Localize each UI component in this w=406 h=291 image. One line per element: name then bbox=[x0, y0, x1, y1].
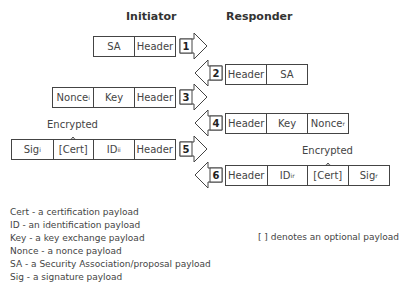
payload-sa: SA bbox=[94, 37, 134, 56]
payload-header: Header bbox=[134, 140, 176, 159]
payload-header: Header bbox=[226, 65, 266, 84]
payload-cert: [Cert] bbox=[307, 166, 348, 185]
payload-nonce: Noncei bbox=[53, 88, 93, 107]
payload-sa: SA bbox=[266, 65, 307, 84]
payload-key: Key bbox=[93, 88, 133, 107]
payload-id: IDii bbox=[93, 140, 134, 159]
message-1: SA Header bbox=[93, 36, 176, 57]
arrow-right-icon: 1 bbox=[179, 32, 209, 60]
payload-header: Header bbox=[226, 114, 266, 133]
message-4: Header Key Noncer bbox=[225, 113, 349, 134]
encrypted-label: Encrypted bbox=[266, 145, 389, 156]
legend: Cert - a certification payload ID - an i… bbox=[10, 206, 211, 284]
responder-heading: Responder bbox=[226, 10, 293, 23]
legend-item-sig: Sig - a signature payload bbox=[10, 271, 211, 284]
legend-item-key: Key - a key exchange payload bbox=[10, 232, 211, 245]
arrow-right-icon: 5 bbox=[179, 135, 209, 163]
legend-item-sa: SA - a Security Association/proposal pay… bbox=[10, 258, 211, 271]
legend-item-nonce: Nonce - a nonce payload bbox=[10, 245, 211, 258]
message-number: 4 bbox=[213, 118, 220, 129]
message-number: 3 bbox=[183, 92, 190, 103]
legend-item-id: ID - an identification payload bbox=[10, 219, 211, 232]
payload-sig: Sigi bbox=[12, 140, 53, 159]
payload-sig: Sigr bbox=[348, 166, 390, 185]
message-number: 1 bbox=[183, 41, 190, 52]
payload-nonce: Noncer bbox=[307, 114, 348, 133]
initiator-heading: Initiator bbox=[126, 10, 176, 23]
arrow-right-icon: 3 bbox=[179, 83, 209, 111]
encrypted-label: Encrypted bbox=[11, 119, 134, 130]
arrow-left-icon: 4 bbox=[193, 109, 223, 137]
message-number: 5 bbox=[183, 144, 190, 155]
message-3: Noncei Key Header bbox=[52, 87, 176, 108]
message-2: Header SA bbox=[225, 64, 308, 85]
arrow-left-icon: 6 bbox=[193, 161, 223, 189]
payload-header: Header bbox=[134, 37, 175, 56]
legend-item-cert: Cert - a certification payload bbox=[10, 206, 211, 219]
payload-key: Key bbox=[266, 114, 306, 133]
payload-cert: [Cert] bbox=[53, 140, 94, 159]
message-number: 2 bbox=[213, 68, 220, 79]
payload-header: Header bbox=[226, 166, 267, 185]
message-5: Sigi [Cert] IDii Header bbox=[11, 139, 176, 160]
message-6: Header IDir [Cert] Sigr bbox=[225, 165, 390, 186]
message-number: 6 bbox=[213, 170, 220, 181]
payload-id: IDir bbox=[267, 166, 308, 185]
payload-header: Header bbox=[134, 88, 175, 107]
optional-payload-note: [ ] denotes an optional payload bbox=[258, 232, 399, 242]
